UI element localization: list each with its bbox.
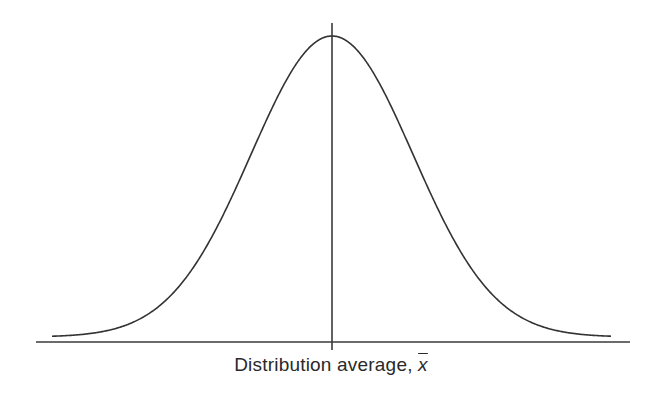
- normal-distribution-chart: [0, 0, 662, 396]
- x-bar-symbol: x: [418, 354, 428, 375]
- x-axis-label: Distribution average, x: [0, 354, 662, 376]
- x-axis-label-text: Distribution average,: [234, 354, 418, 375]
